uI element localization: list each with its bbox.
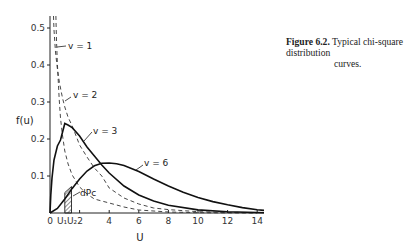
x-tick-10: 10 <box>192 216 204 226</box>
v1-leader <box>57 46 66 47</box>
u2-label: U₂ <box>67 216 78 226</box>
figure-number: Figure 6.2. <box>286 36 330 47</box>
x-axis-title: U <box>136 232 143 243</box>
x-tick-4: 4 <box>106 216 112 226</box>
label-v1: v = 1 <box>68 41 92 51</box>
v2-leader <box>65 97 71 101</box>
dpc-leader-line <box>73 192 80 196</box>
label-v3: v = 3 <box>93 126 117 136</box>
y-axis-title: f(u) <box>16 115 34 126</box>
curve-v3 <box>50 124 264 214</box>
y-tick-0.2: 0.2 <box>31 134 45 144</box>
x-tick-6: 6 <box>136 216 142 226</box>
x-tick-14: 14 <box>251 216 263 226</box>
x-tick-12: 12 <box>222 216 233 226</box>
label-v2: v = 2 <box>73 90 97 100</box>
v3-leader <box>84 132 92 141</box>
figure-caption: Figure 6.2. Typical chi-square distribut… <box>286 36 416 69</box>
x-tick-2: 2 <box>77 216 83 226</box>
v6-leader <box>136 165 143 170</box>
y-tick-0.1: 0.1 <box>31 171 45 181</box>
x-tick-8: 8 <box>166 216 172 226</box>
label-v6: v = 6 <box>144 158 169 168</box>
y-tick-0.4: 0.4 <box>31 60 46 70</box>
caption-text-line2: curves. <box>286 58 416 69</box>
x-tick-0: 0 <box>47 216 53 226</box>
y-tick-0.5: 0.5 <box>31 23 45 33</box>
u1-label: U₁ <box>57 216 68 226</box>
y-tick-0.3: 0.3 <box>31 97 45 107</box>
